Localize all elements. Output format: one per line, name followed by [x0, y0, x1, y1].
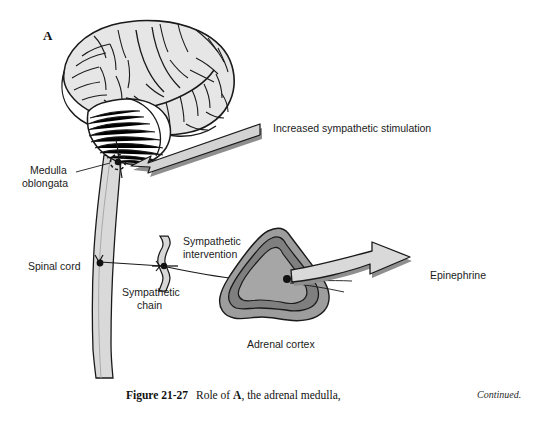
spinal-cord-icon — [92, 155, 121, 378]
panel-letter-a: A — [43, 28, 53, 43]
sympathetic-chain-ganglion-icon — [152, 236, 178, 291]
figure-caption: Figure 21-27 Role of A, the adrenal medu… — [0, 389, 536, 409]
label-increased-sympathetic-stimulation: Increased sympathetic stimulation — [273, 122, 431, 134]
label-adrenal-cortex: Adrenal cortex — [247, 338, 315, 350]
label-epinephrine: Epinephrine — [430, 269, 486, 281]
figure-21-27: A Increased sympathetic stimulation Medu… — [0, 0, 536, 426]
label-sympathetic-chain-line2: chain — [137, 299, 162, 311]
label-medulla-oblongata-line2: oblongata — [22, 177, 68, 189]
label-sympathetic-intervention-line1: Sympathetic — [183, 235, 241, 247]
cerebellum-icon — [88, 98, 171, 164]
caption-text-before: Role of — [196, 389, 233, 401]
caption-continued: Continued. — [477, 389, 521, 400]
label-medulla-oblongata-line1: Medulla — [30, 164, 67, 176]
cord-synapse-node — [97, 260, 104, 267]
caption-text-after: , the adrenal medulla, — [241, 389, 340, 401]
caption-text: Role of A, the adrenal medulla, — [196, 389, 341, 401]
label-spinal-cord: Spinal cord — [28, 260, 81, 272]
anatomical-diagram: A Increased sympathetic stimulation Medu… — [0, 0, 536, 426]
label-sympathetic-chain-line1: Sympathetic — [122, 286, 180, 298]
label-sympathetic-intervention-line2: intervention — [183, 248, 237, 260]
caption-figure-number: Figure 21-27 — [126, 389, 188, 401]
